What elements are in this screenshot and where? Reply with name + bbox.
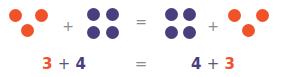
plus-sign: + bbox=[207, 19, 219, 33]
orange-dot bbox=[242, 24, 255, 37]
purple-dot bbox=[106, 8, 119, 21]
number-three: 3 bbox=[225, 55, 235, 73]
orange-dot bbox=[228, 9, 241, 22]
expression-right: 4 + 3 bbox=[191, 55, 235, 73]
orange-dot bbox=[21, 24, 34, 37]
purple-dot bbox=[87, 8, 100, 21]
purple-dot bbox=[87, 26, 100, 39]
orange-dot bbox=[35, 9, 48, 22]
equals-operator: = bbox=[135, 55, 148, 73]
purple-dot bbox=[165, 8, 178, 21]
plus-sign: + bbox=[62, 19, 74, 33]
purple-dot bbox=[183, 8, 196, 21]
number-four: 4 bbox=[191, 55, 201, 73]
expression-left: 3 + 4 bbox=[42, 55, 86, 73]
plus-operator: + bbox=[58, 55, 71, 73]
purple-dot bbox=[106, 26, 119, 39]
equals-sign: = bbox=[135, 15, 147, 29]
number-four: 4 bbox=[76, 55, 86, 73]
number-three: 3 bbox=[42, 55, 52, 73]
purple-dot bbox=[183, 26, 196, 39]
orange-dot bbox=[9, 9, 22, 22]
purple-dot bbox=[165, 26, 178, 39]
orange-dot bbox=[256, 9, 269, 22]
plus-operator: + bbox=[207, 55, 220, 73]
